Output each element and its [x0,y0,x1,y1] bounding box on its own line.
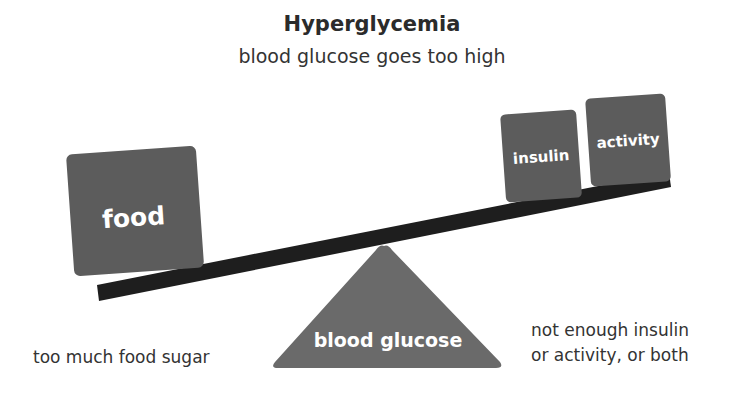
fulcrum-triangle: blood glucose [273,246,501,369]
insulin-box: insulin [500,109,582,202]
activity-box: activity [585,93,671,186]
left-cause-label: too much food sugar [33,347,210,367]
fulcrum-label: blood glucose [314,329,463,351]
right-cause-label: not enough insulin or activity, or both [531,318,689,368]
right-cause-line-2: or activity, or both [531,343,689,368]
food-box-label: food [101,201,166,234]
food-box: food [66,146,204,277]
right-cause-line-1: not enough insulin [531,318,689,343]
